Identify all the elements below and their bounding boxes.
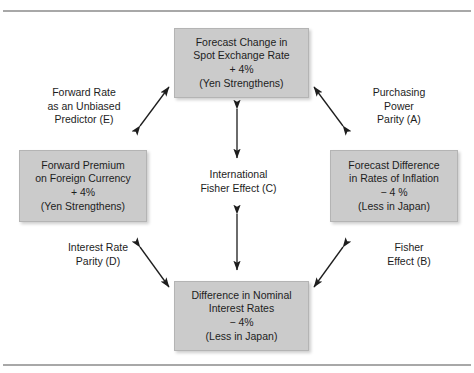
edge-label-b-line-1: Fisher [368,241,450,255]
center-label-international-fisher-effect: International Fisher Effect (C) [177,168,300,195]
node-nominal-line-2: Interest Rates [209,302,274,316]
arrow-b [314,247,343,287]
node-fwdprem-note: (Yen Strengthens) [41,200,125,214]
node-forward-premium-foreign-currency: Forward Premium on Foreign Currency + 4%… [19,150,147,222]
edge-label-forward-rate-unbiased-predictor: Forward Rate as an Unbiased Predictor (E… [30,86,138,127]
node-nominal-note: (Less in Japan) [206,330,278,344]
center-label-line-1: International [177,168,300,182]
node-spot-line-1: Forecast Change in [196,36,288,50]
edge-label-a-line-2: Power [352,100,446,114]
center-label-line-2: Fisher Effect (C) [177,182,300,196]
node-infl-value: − 4 % [380,186,407,200]
parity-conditions-diagram: Forecast Change in Spot Exchange Rate + … [0,0,474,373]
top-divider-rule [3,10,471,12]
arrow-a [314,87,343,126]
edge-label-a-line-1: Purchasing [352,86,446,100]
edge-label-d-line-1: Interest Rate [46,241,150,255]
node-forecast-difference-rates-of-inflation: Forecast Difference in Rates of Inflatio… [330,150,458,222]
node-spot-note: (Yen Strengthens) [199,77,283,91]
edge-label-a-line-3: Parity (A) [352,113,446,127]
node-difference-in-nominal-interest-rates: Difference in Nominal Interest Rates − 4… [174,281,309,351]
edge-label-e-line-2: as an Unbiased [30,100,138,114]
node-infl-line-1: Forecast Difference [348,159,439,173]
node-infl-line-2: in Rates of Inflation [349,172,439,186]
edge-label-b-line-2: Effect (B) [368,255,450,269]
edge-label-e-line-1: Forward Rate [30,86,138,100]
arrow-e [140,87,169,126]
node-infl-note: (Less in Japan) [358,200,430,214]
edge-label-purchasing-power-parity: Purchasing Power Parity (A) [352,86,446,127]
node-spot-value: + 4% [229,63,253,77]
node-spot-line-2: Spot Exchange Rate [193,49,289,63]
edge-label-fisher-effect: Fisher Effect (B) [368,241,450,268]
node-fwdprem-value: + 4% [71,186,95,200]
edge-label-e-line-3: Predictor (E) [30,113,138,127]
node-nominal-line-1: Difference in Nominal [191,289,291,303]
node-fwdprem-line-1: Forward Premium [41,159,124,173]
edge-label-d-line-2: Parity (D) [46,255,150,269]
node-nominal-value: − 4% [229,316,253,330]
node-fwdprem-line-2: on Foreign Currency [35,172,131,186]
edge-label-interest-rate-parity: Interest Rate Parity (D) [46,241,150,268]
bottom-divider-rule [3,364,471,366]
node-forecast-change-spot-exchange-rate: Forecast Change in Spot Exchange Rate + … [174,28,309,98]
